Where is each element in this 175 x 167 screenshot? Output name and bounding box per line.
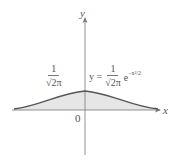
equation-exp-base: e−x²/2 [124, 70, 141, 83]
normal-curve-plot [0, 0, 175, 167]
density-equation: y = 1 √2π e−x²/2 [89, 63, 141, 89]
peak-numerator: 1 [48, 63, 59, 76]
peak-denominator: √2π [46, 76, 62, 89]
equation-numerator: 1 [107, 63, 118, 76]
shaded-area [14, 91, 158, 110]
equation-denominator: √2π [105, 76, 121, 89]
peak-height-label: 1 √2π [46, 63, 62, 89]
origin-label: 0 [75, 113, 81, 124]
equation-exponent: −x²/2 [128, 70, 141, 76]
y-axis-label: y [80, 8, 85, 19]
equation-fraction: 1 √2π [105, 63, 121, 89]
x-axis-label: x [163, 105, 168, 116]
equation-prefix: y = [89, 71, 102, 82]
